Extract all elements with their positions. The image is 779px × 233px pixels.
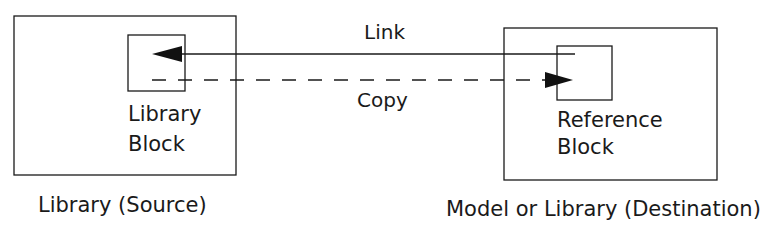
link-label: Link xyxy=(364,20,405,44)
copy-arrowhead-icon xyxy=(545,72,573,88)
library-link-diagram: Library Block Library (Source) Reference… xyxy=(0,0,779,233)
library-block-box xyxy=(128,35,185,91)
link-connection: Link xyxy=(152,20,575,62)
source-container-box xyxy=(14,16,236,175)
destination-container-label: Model or Library (Destination) xyxy=(446,197,761,221)
destination-container: Reference Block Model or Library (Destin… xyxy=(446,28,761,221)
link-arrowhead-icon xyxy=(152,46,182,62)
copy-connection: Copy xyxy=(152,72,573,112)
library-block-label-line1: Library xyxy=(128,102,201,126)
reference-block-label-line2: Block xyxy=(557,135,615,159)
copy-label: Copy xyxy=(357,88,408,112)
source-container: Library Block Library (Source) xyxy=(14,16,236,217)
reference-block-label-line1: Reference xyxy=(557,108,663,132)
source-container-label: Library (Source) xyxy=(38,193,207,217)
library-block-label-line2: Block xyxy=(128,132,186,156)
